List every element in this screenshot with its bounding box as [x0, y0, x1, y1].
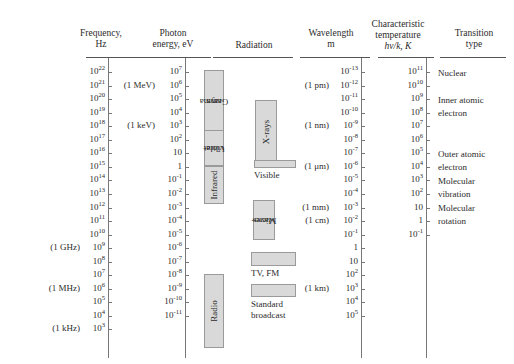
- wavelength-tick: [361, 180, 365, 181]
- photon-energy-tick-label: 103: [156, 121, 182, 130]
- wavelength-tick: [361, 262, 365, 263]
- photon-energy-tick-label: 10-6: [156, 243, 182, 252]
- wavelength-tick: [361, 153, 365, 154]
- frequency-tick: [108, 167, 112, 168]
- rule-transition: [440, 57, 506, 58]
- wavelength-tick-label: 1: [330, 243, 358, 252]
- wavelength-header-line1: Wavelength: [296, 28, 366, 39]
- frequency-tick: [108, 194, 112, 195]
- column-header-frequency: Frequency, Hz: [68, 28, 134, 50]
- transition-outer-atomic-1: Outer atomic: [438, 149, 485, 160]
- frequency-tick-label: 1018: [81, 121, 105, 130]
- photon-energy-tick-label: 106: [156, 81, 182, 90]
- temperature-tick: [426, 235, 430, 236]
- temperature-header-line2: temperature: [358, 30, 438, 41]
- temperature-tick-label: 107: [399, 121, 423, 130]
- frequency-tick: [108, 329, 112, 330]
- wavelength-tick: [361, 275, 365, 276]
- temperature-tick-label: 106: [399, 135, 423, 144]
- wavelength-tick-label: 102: [330, 270, 358, 279]
- band-xrays-label: X-rays: [261, 119, 271, 144]
- photon-energy-tick-label: 10-1: [156, 175, 182, 184]
- frequency-tick-label: 1022: [81, 67, 105, 76]
- frequency-tick-label: 1010: [81, 230, 105, 239]
- wavelength-tick: [361, 72, 365, 73]
- band-tvfm-label: TV, FM: [251, 268, 279, 278]
- transition-header-line2: type: [440, 39, 508, 50]
- band-micro-label-2: waves: [253, 215, 276, 225]
- frequency-annotation: (1 GHz): [34, 243, 80, 252]
- temperature-tick: [426, 99, 430, 100]
- wavelength-tick: [361, 248, 365, 249]
- frequency-header-line1: Frequency,: [68, 28, 134, 39]
- band-tvfm-bar: [251, 252, 296, 266]
- band-infrared-label: Infrared: [209, 171, 219, 200]
- column-header-wavelength: Wavelength m: [296, 28, 366, 50]
- frequency-tick: [108, 99, 112, 100]
- wavelength-tick-label: 104: [330, 297, 358, 306]
- photon-energy-tick-label: 10-4: [156, 216, 182, 225]
- transition-molecular-vibration-2: vibration: [438, 189, 471, 200]
- frequency-tick: [108, 208, 112, 209]
- wavelength-tick: [361, 126, 365, 127]
- wavelength-tick: [361, 140, 365, 141]
- photon-energy-tick: [185, 180, 189, 181]
- photon-energy-tick-label: 104: [156, 108, 182, 117]
- frequency-tick-label: 106: [81, 284, 105, 293]
- frequency-tick: [108, 289, 112, 290]
- column-header-transition: Transition type: [440, 28, 508, 50]
- band-gamma-rays: Gamma rays: [204, 70, 224, 132]
- band-microwaves: Micro- waves: [253, 200, 275, 240]
- frequency-tick: [108, 140, 112, 141]
- photon-energy-tick: [185, 194, 189, 195]
- temperature-tick-label: 1010: [399, 81, 423, 90]
- frequency-tick-label: 1012: [81, 203, 105, 212]
- photon-energy-annotation: (1 keV): [111, 121, 155, 130]
- band-ultraviolet: Ultra- violet: [204, 130, 224, 166]
- photon-header-line2: energy, eV: [136, 39, 210, 50]
- photon-energy-tick: [185, 153, 189, 154]
- transition-outer-atomic-2: electron: [438, 162, 467, 173]
- photon-energy-tick: [185, 86, 189, 87]
- band-radio-label: Radio: [209, 300, 219, 322]
- transition-inner-atomic-1: Inner atomic: [438, 95, 484, 106]
- wavelength-tick-label: 10-7: [330, 148, 358, 157]
- frequency-tick-label: 1021: [81, 81, 105, 90]
- wavelength-tick: [361, 113, 365, 114]
- photon-energy-tick: [185, 113, 189, 114]
- transition-nuclear: Nuclear: [438, 68, 466, 79]
- photon-energy-tick: [185, 126, 189, 127]
- band-standard-label-2: broadcast: [251, 310, 285, 320]
- frequency-tick-label: 104: [81, 311, 105, 320]
- photon-energy-tick-label: 10-7: [156, 257, 182, 266]
- temperature-tick-label: 1011: [399, 67, 423, 76]
- frequency-tick: [108, 235, 112, 236]
- photon-energy-tick-label: 1: [156, 162, 182, 171]
- frequency-tick-label: 1014: [81, 175, 105, 184]
- wavelength-header-line2: m: [296, 39, 366, 50]
- frequency-tick: [108, 275, 112, 276]
- photon-energy-tick: [185, 316, 189, 317]
- temperature-tick: [426, 194, 430, 195]
- photon-energy-tick: [185, 248, 189, 249]
- frequency-tick: [108, 302, 112, 303]
- temperature-tick: [426, 140, 430, 141]
- photon-energy-tick-label: 10-9: [156, 284, 182, 293]
- photon-energy-tick: [185, 72, 189, 73]
- temperature-tick-label: 102: [399, 189, 423, 198]
- temperature-tick-label: 10-1: [399, 230, 423, 239]
- temperature-tick: [426, 153, 430, 154]
- wavelength-tick-label: 10: [330, 257, 358, 266]
- column-header-temperature: Characteristic temperature hν/k, K: [358, 19, 438, 52]
- frequency-tick-label: 105: [81, 297, 105, 306]
- photon-energy-tick: [185, 99, 189, 100]
- temperature-tick: [426, 86, 430, 87]
- wavelength-annotation: (1 mm): [285, 203, 329, 212]
- wavelength-tick-label: 105: [330, 311, 358, 320]
- column-header-photon-energy: Photon energy, eV: [136, 28, 210, 50]
- wavelength-tick-label: 10-4: [330, 189, 358, 198]
- frequency-tick-label: 1015: [81, 162, 105, 171]
- wavelength-tick: [361, 235, 365, 236]
- transition-inner-atomic-2: electron: [438, 108, 467, 119]
- photon-energy-tick: [185, 140, 189, 141]
